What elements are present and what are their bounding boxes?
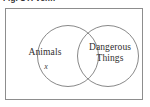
venn-diagram-figure: Fig. 1 A Venn Animals Dangerous Things x	[0, 0, 150, 107]
figure-caption-text: Fig. 1 A Venn	[3, 0, 55, 3]
set-label-dangerous-things: Dangerous Things	[84, 42, 136, 63]
figure-caption-strip: Fig. 1 A Venn	[0, 0, 150, 3]
set-label-animals: Animals	[20, 47, 70, 58]
element-marker-x: x	[36, 62, 56, 71]
